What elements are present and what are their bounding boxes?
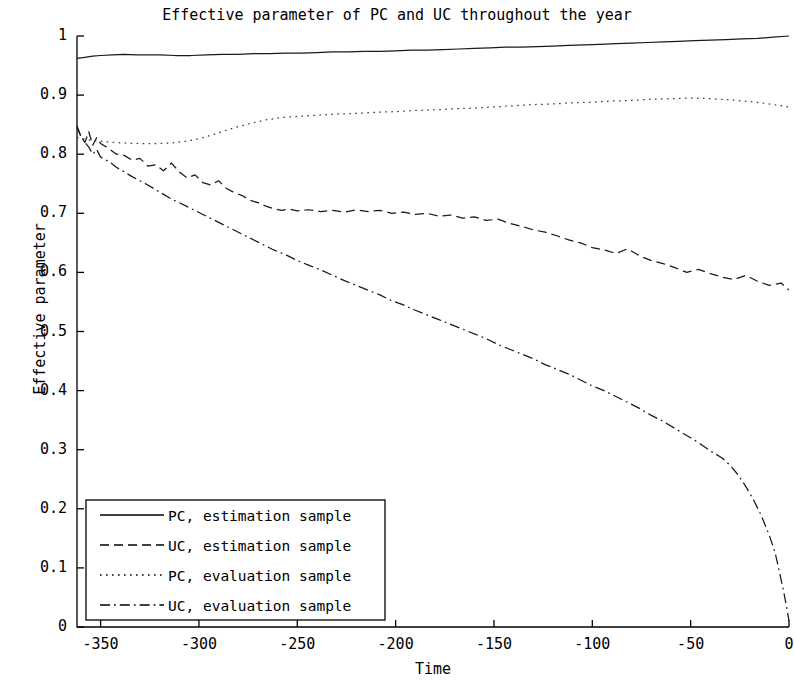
series-line-3	[77, 98, 789, 144]
legend-label-4: UC, evaluation sample	[168, 598, 351, 614]
series-line-2	[77, 128, 789, 291]
plot-canvas: PC, estimation sampleUC, estimation samp…	[0, 0, 794, 688]
chart-figure: Effective parameter of PC and UC through…	[0, 0, 794, 688]
series-line-1	[77, 36, 789, 58]
legend-label-1: PC, estimation sample	[168, 508, 351, 524]
legend-label-3: PC, evaluation sample	[168, 568, 351, 584]
legend-box[interactable]: PC, estimation sampleUC, estimation samp…	[86, 500, 385, 620]
legend-label-2: UC, estimation sample	[168, 538, 351, 554]
